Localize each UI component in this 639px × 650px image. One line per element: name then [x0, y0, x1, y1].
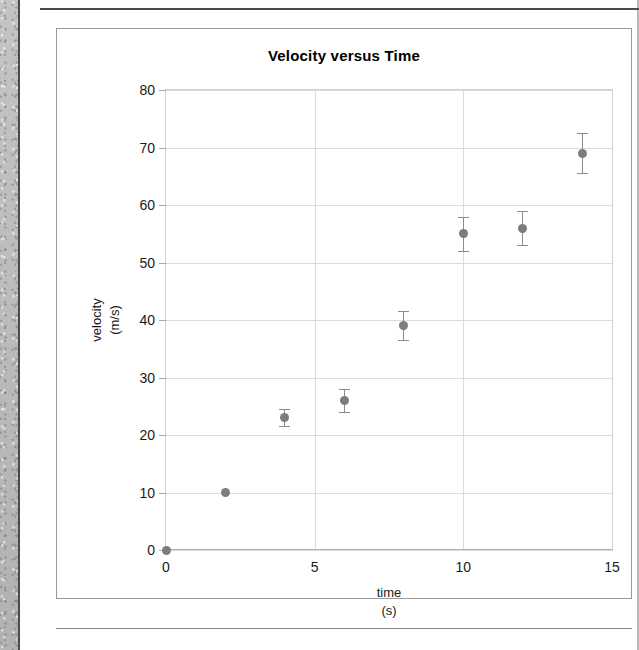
data-point: [221, 488, 230, 497]
x-tick-label-5: 5: [311, 559, 319, 575]
error-bar-cap-upper: [458, 217, 469, 218]
error-bar-cap-upper: [577, 133, 588, 134]
error-bar-cap-upper: [279, 409, 290, 410]
error-bar-cap-lower: [458, 251, 469, 252]
page-top-rule: [40, 8, 639, 10]
y-tick-40: [159, 320, 166, 321]
error-bar-cap-lower: [279, 426, 290, 427]
y-axis-title-units: (m/s): [106, 298, 124, 341]
gridline-y-30: [166, 378, 612, 379]
chart-figure-box: Velocity versus Time 01020304050607080 0…: [56, 28, 632, 599]
data-point: [340, 396, 349, 405]
y-tick-10: [159, 493, 166, 494]
gridline-y-70: [166, 148, 612, 149]
data-point: [162, 546, 171, 555]
y-tick-label-70: 70: [139, 140, 155, 156]
document-page: Velocity versus Time 01020304050607080 0…: [18, 0, 637, 650]
gridline-y-60: [166, 205, 612, 206]
y-tick-label-20: 20: [139, 427, 155, 443]
data-point: [399, 321, 408, 330]
data-point: [578, 149, 587, 158]
error-bar-cap-upper: [398, 311, 409, 312]
x-axis-line: [166, 549, 612, 550]
gridline-y-40: [166, 320, 612, 321]
error-bar-cap-lower: [398, 340, 409, 341]
x-axis-title-units: (s): [377, 602, 402, 620]
error-bar-cap-lower: [339, 412, 350, 413]
x-tick-label-15: 15: [604, 559, 620, 575]
error-bar-cap-lower: [517, 245, 528, 246]
error-bar-cap-lower: [577, 173, 588, 174]
y-tick-label-50: 50: [139, 255, 155, 271]
data-point: [518, 224, 527, 233]
y-tick-50: [159, 263, 166, 264]
y-tick-label-10: 10: [139, 485, 155, 501]
gridline-y-0: [166, 550, 612, 551]
chart-title: Velocity versus Time: [57, 47, 631, 64]
x-tick-label-0: 0: [162, 559, 170, 575]
gridline-x-5: [315, 90, 316, 550]
x-axis-title-name: time: [377, 584, 402, 602]
y-tick-label-30: 30: [139, 370, 155, 386]
gridline-y-10: [166, 493, 612, 494]
gridline-y-80: [166, 90, 612, 91]
y-tick-60: [159, 205, 166, 206]
gridline-y-20: [166, 435, 612, 436]
y-tick-label-40: 40: [139, 312, 155, 328]
y-tick-70: [159, 148, 166, 149]
page-bottom-rule: [56, 628, 632, 629]
data-point: [459, 229, 468, 238]
data-point: [280, 413, 289, 422]
error-bar-cap-upper: [339, 389, 350, 390]
y-tick-30: [159, 378, 166, 379]
y-tick-80: [159, 90, 166, 91]
y-tick-label-0: 0: [147, 542, 155, 558]
y-tick-label-60: 60: [139, 197, 155, 213]
y-axis-title-name: velocity: [88, 298, 106, 341]
gridline-y-50: [166, 263, 612, 264]
x-tick-label-10: 10: [456, 559, 472, 575]
y-axis-title: velocity (m/s): [88, 298, 123, 341]
error-bar-cap-upper: [517, 211, 528, 212]
y-tick-20: [159, 435, 166, 436]
gridline-x-10: [463, 90, 464, 550]
x-axis-title: time (s): [377, 584, 402, 619]
y-tick-label-80: 80: [139, 82, 155, 98]
plot-area: 01020304050607080 051015 time (s) veloci…: [165, 89, 613, 551]
